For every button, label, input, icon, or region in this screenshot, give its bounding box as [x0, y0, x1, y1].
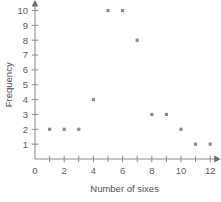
y-axis-arrow-icon — [32, 0, 39, 7]
x-axis-title: Number of sixes — [90, 183, 159, 194]
y-tick-label: 8 — [23, 35, 28, 46]
data-point — [106, 9, 109, 12]
y-tick-label: 1 — [23, 139, 28, 150]
y-tick-label: 5 — [23, 79, 28, 90]
data-point — [165, 113, 168, 116]
x-tick-label: 6 — [120, 165, 125, 176]
y-tick-label: 7 — [23, 49, 28, 60]
x-tick-label: 0 — [32, 165, 37, 176]
y-tick-label: 4 — [23, 94, 28, 105]
y-axis-title: Frequency — [3, 62, 14, 107]
data-point — [194, 143, 197, 146]
data-point — [77, 128, 80, 131]
y-tick-label: 9 — [23, 20, 28, 31]
data-point — [150, 113, 153, 116]
y-axis-tick-labels: 12345678910 — [17, 5, 28, 150]
data-point — [136, 39, 139, 42]
data-points-group — [48, 9, 212, 146]
y-tick-label: 10 — [17, 5, 28, 16]
x-tick-label: 8 — [149, 165, 154, 176]
x-tick-label: 12 — [205, 165, 216, 176]
y-tick-label: 2 — [23, 124, 28, 135]
data-point — [179, 128, 182, 131]
x-tick-label: 4 — [91, 165, 96, 176]
y-tick-label: 6 — [23, 64, 28, 75]
scatter-chart: 024681012 12345678910 Number of sixesFre… — [0, 0, 221, 202]
data-point — [121, 9, 124, 12]
data-point — [92, 98, 95, 101]
x-tick-label: 10 — [176, 165, 187, 176]
data-point — [63, 128, 66, 131]
x-axis-arrow-icon — [214, 156, 221, 163]
data-point — [48, 128, 51, 131]
axes-group — [32, 0, 221, 162]
chart-canvas: 024681012 12345678910 Number of sixesFre… — [0, 0, 221, 202]
data-point — [209, 143, 212, 146]
y-tick-label: 3 — [23, 109, 28, 120]
x-tick-label: 2 — [62, 165, 67, 176]
x-axis-tick-labels: 024681012 — [32, 165, 215, 176]
